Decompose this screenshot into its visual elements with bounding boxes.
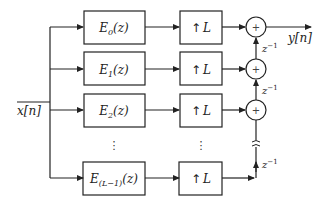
delay-label-2: z−1 xyxy=(261,158,278,170)
up-arrow-icon: ↑ xyxy=(191,63,201,77)
filter-label-e0: E0(z) xyxy=(98,21,129,37)
adder-1-plus: + xyxy=(252,64,260,75)
delay-label-0: z−1 xyxy=(261,42,278,54)
upsampler-label-0: ↑L xyxy=(191,21,211,35)
up-arrow-icon: ↑ xyxy=(191,104,201,118)
upsampler-label-1: ↑L xyxy=(191,63,211,77)
up-arrow-icon: ↑ xyxy=(191,172,201,186)
input-label: x[n] xyxy=(17,104,41,118)
filter-label-elm1: E(L−1)(z) xyxy=(89,172,138,188)
output-label: y[n] xyxy=(287,31,312,45)
filter-label-e2: E2(z) xyxy=(98,104,129,120)
adder-0-plus: + xyxy=(252,22,260,33)
upsampler-label-2: ↑L xyxy=(191,104,211,118)
up-arrow-icon: ↑ xyxy=(191,21,201,35)
ellipsis-upsamplers: ⋮ xyxy=(196,139,207,152)
break-mark xyxy=(252,141,260,147)
ellipsis-filters: ⋮ xyxy=(109,139,120,152)
filter-label-e1: E1(z) xyxy=(98,63,129,79)
polyphase-diagram: + + + E0(z) E1(z) E2(z) E(L−1)(z) ↑L ↑L … xyxy=(0,0,326,203)
adder-2-plus: + xyxy=(252,105,260,116)
upsampler-label-3: ↑L xyxy=(191,172,211,186)
delay-label-1: z−1 xyxy=(261,84,278,96)
